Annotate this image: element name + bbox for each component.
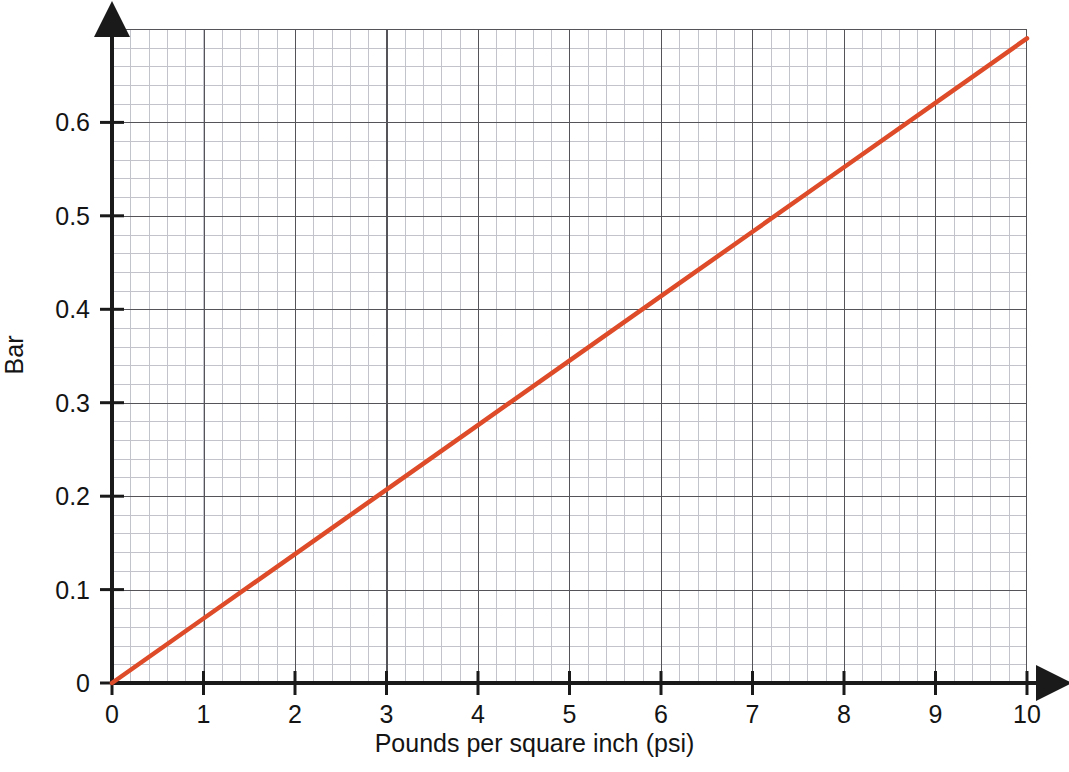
x-tick-label: 7	[746, 702, 760, 727]
x-axis-title: Pounds per square inch (psi)	[0, 729, 1069, 758]
series-line-psi-to-bar	[112, 38, 1027, 683]
chart-container: 0 0.1 0.2 0.3 0.4 0.5 0.6 0 1 2 3 4 5 6 …	[0, 0, 1069, 772]
y-tick-label: 0	[40, 671, 90, 696]
x-tick-label: 5	[563, 702, 577, 727]
x-tick-label: 3	[380, 702, 394, 727]
x-tick-label: 1	[197, 702, 211, 727]
x-tick-label: 2	[288, 702, 302, 727]
x-tick-label: 8	[837, 702, 851, 727]
y-tick-label: 0.4	[40, 297, 90, 322]
x-tick-label: 9	[929, 702, 943, 727]
y-tick-label: 0.3	[40, 390, 90, 415]
y-tick-label: 0.6	[40, 110, 90, 135]
x-tick-label: 6	[654, 702, 668, 727]
x-tick-label: 0	[105, 702, 119, 727]
y-tick-label: 0.5	[40, 203, 90, 228]
y-tick-label: 0.1	[40, 577, 90, 602]
x-tick-label: 10	[1013, 702, 1041, 727]
axes-and-series-svg	[0, 0, 1069, 772]
y-axis-title: Bar	[0, 336, 29, 375]
x-tick-label: 4	[471, 702, 485, 727]
y-tick-label: 0.2	[40, 484, 90, 509]
